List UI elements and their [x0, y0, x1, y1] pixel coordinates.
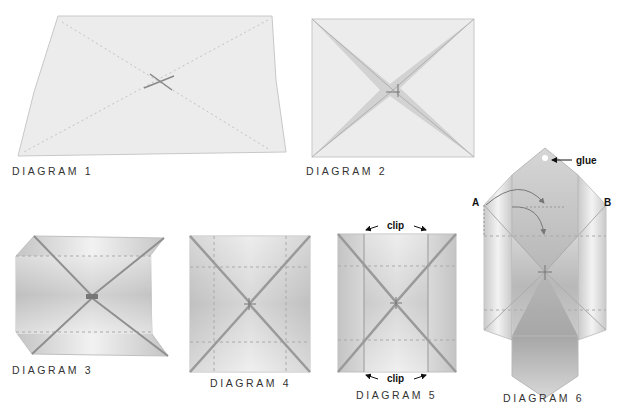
diagram-3-side-folds [16, 236, 168, 356]
diagram-2-creased-square [312, 19, 474, 157]
caption-diagram-2: DIAGRAM 2 [306, 165, 387, 177]
diagram-5-clipped-box: clip clip [338, 220, 456, 384]
caption-diagram-1: DIAGRAM 1 [12, 165, 93, 177]
clip-label-top: clip [387, 220, 404, 231]
point-a-label: A [472, 197, 479, 208]
diagram-6-glue-assembly: glue A B [472, 148, 611, 398]
diagram-4-box-base [190, 236, 310, 372]
diagram-1-flat-sheet [18, 16, 286, 156]
caption-diagram-3: DIAGRAM 3 [12, 364, 93, 376]
caption-diagram-6: DIAGRAM 6 [503, 392, 584, 404]
instruction-diagram-canvas: clip clip glue A B [0, 0, 620, 413]
caption-diagram-4: DIAGRAM 4 [210, 377, 291, 389]
glue-label: glue [576, 155, 597, 166]
caption-diagram-5: DIAGRAM 5 [356, 389, 437, 401]
clip-label-bottom: clip [387, 373, 404, 384]
point-b-label: B [604, 197, 611, 208]
